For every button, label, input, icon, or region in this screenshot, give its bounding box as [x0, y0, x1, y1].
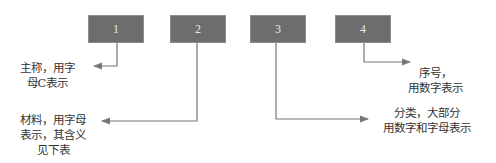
box-3: 3: [250, 15, 306, 43]
box-3-label: 3: [275, 22, 281, 37]
box-4-label: 4: [360, 22, 366, 37]
annotation-category: 分类，大部分 用数字和字母表示: [383, 106, 471, 136]
connector-1: [94, 43, 117, 66]
annotation-material: 材料，用字母 表示，其含义 见下表: [20, 113, 86, 158]
box-4: 4: [335, 15, 391, 43]
connector-4: [364, 43, 410, 62]
box-1-label: 1: [113, 22, 119, 37]
annotation-main-name: 主称，用字 母C表示: [20, 61, 75, 91]
connector-3: [276, 43, 368, 119]
box-2: 2: [170, 15, 226, 43]
connector-2: [102, 43, 197, 121]
box-2-label: 2: [195, 22, 201, 37]
box-1: 1: [88, 15, 144, 43]
annotation-serial-number: 序号， 用数字表示: [408, 66, 463, 96]
